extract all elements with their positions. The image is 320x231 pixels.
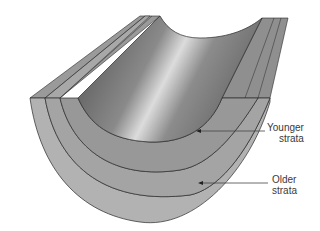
syncline-diagram [0,0,320,231]
older-strata-label: Older strata [272,174,297,196]
older-label-line1: Older [272,174,297,185]
younger-label-line2: strata [267,133,304,144]
younger-label-line1: Younger [267,122,304,133]
older-label-line2: strata [272,185,297,196]
younger-strata-label: Younger strata [267,122,304,144]
